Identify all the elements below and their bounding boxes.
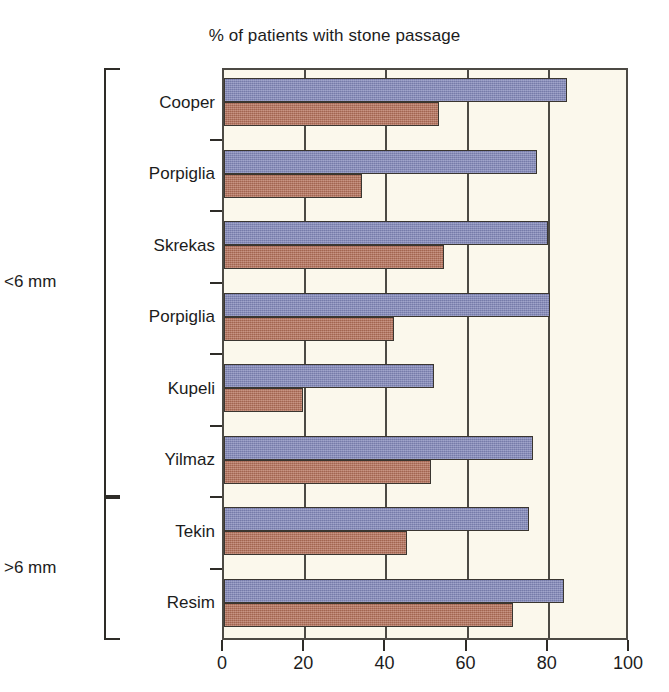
x-tick-label-80: 80 xyxy=(537,653,557,674)
bar-red-resim-7 xyxy=(224,603,513,627)
bar-red-porpiglia-3 xyxy=(224,317,394,341)
bar-row xyxy=(224,285,626,357)
y-tick-6 xyxy=(210,496,222,498)
bar-blue-porpiglia-1 xyxy=(224,150,537,174)
x-tick-80 xyxy=(546,640,548,651)
category-labels: CooperPorpigliaSkrekasPorpigliaKupeliYil… xyxy=(75,68,215,640)
x-tick-label-20: 20 xyxy=(293,653,313,674)
bar-blue-tekin-6 xyxy=(224,507,529,531)
x-tick-20 xyxy=(302,640,304,651)
y-tick-7 xyxy=(210,568,222,570)
bar-red-cooper-0 xyxy=(224,102,439,126)
bar-row xyxy=(224,356,626,428)
group-brackets: <6 mm>6 mm xyxy=(104,62,124,646)
bar-red-kupeli-4 xyxy=(224,388,303,412)
group-label-1: >6 mm xyxy=(4,558,100,578)
chart-title: % of patients with stone passage xyxy=(0,26,669,46)
x-tick-label-100: 100 xyxy=(613,653,643,674)
y-axis-ticks xyxy=(210,68,224,640)
chart-figure: % of patients with stone passage CooperP… xyxy=(0,0,669,692)
group-bracket-0 xyxy=(104,68,120,497)
bar-blue-yilmaz-5 xyxy=(224,436,533,460)
bar-blue-cooper-0 xyxy=(224,78,567,102)
bar-red-yilmaz-5 xyxy=(224,460,431,484)
bar-row xyxy=(224,213,626,285)
group-bracket-1 xyxy=(104,497,120,640)
plot-area xyxy=(222,68,628,640)
bar-red-tekin-6 xyxy=(224,531,407,555)
y-tick-3 xyxy=(210,282,222,284)
bar-row xyxy=(224,499,626,571)
bar-blue-kupeli-4 xyxy=(224,364,434,388)
x-tick-0 xyxy=(221,640,223,651)
x-tick-label-60: 60 xyxy=(456,653,476,674)
x-tick-label-0: 0 xyxy=(217,653,227,674)
x-tick-40 xyxy=(383,640,385,651)
bar-red-skrekas-2 xyxy=(224,245,444,269)
bar-row xyxy=(224,571,626,643)
group-label-0: <6 mm xyxy=(4,272,100,292)
x-tick-60 xyxy=(465,640,467,651)
x-tick-label-40: 40 xyxy=(374,653,394,674)
y-tick-2 xyxy=(210,210,222,212)
x-axis: 020406080100 xyxy=(222,640,628,690)
bar-row xyxy=(224,428,626,500)
bar-blue-porpiglia-3 xyxy=(224,293,550,317)
y-tick-1 xyxy=(210,139,222,141)
y-tick-4 xyxy=(210,353,222,355)
bar-blue-skrekas-2 xyxy=(224,221,548,245)
y-tick-5 xyxy=(210,425,222,427)
bar-row xyxy=(224,70,626,142)
bar-row xyxy=(224,142,626,214)
x-tick-100 xyxy=(627,640,629,651)
bar-blue-resim-7 xyxy=(224,579,564,603)
bar-red-porpiglia-1 xyxy=(224,174,362,198)
